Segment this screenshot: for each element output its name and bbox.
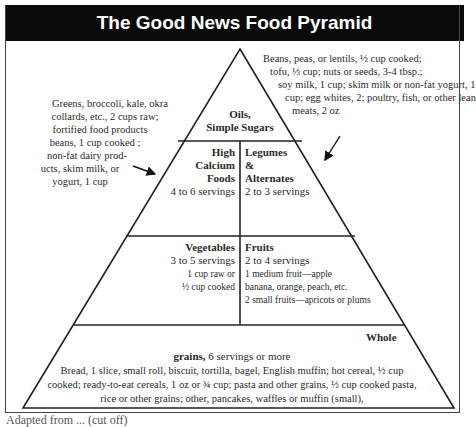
arrow-right-icon — [325, 136, 340, 160]
figure-caption-cutoff: Adapted from ... (cut off) — [6, 413, 127, 427]
